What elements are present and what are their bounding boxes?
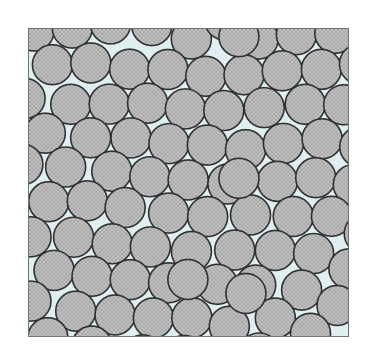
particle-packing-canvas — [29, 29, 348, 336]
square-domain-border — [28, 28, 349, 337]
figure-root: A square frame with a pale blue backgrou… — [0, 0, 376, 359]
